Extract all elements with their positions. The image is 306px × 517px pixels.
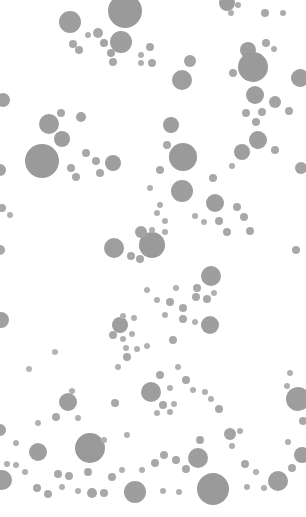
bubble-dot [144,287,150,293]
bubble-dot [193,284,201,292]
bubble-dot [192,213,198,219]
bubble-dot [154,210,160,216]
bubble-dot [93,28,103,38]
bubble-dot [292,246,300,254]
bubble-dot [120,313,126,319]
bubble-dot [271,146,279,154]
bubble-dot [100,39,108,47]
bubble-dot [171,180,193,202]
bubble-dot [262,39,270,47]
bubble-dot [201,266,221,286]
bubble-dot [242,109,250,117]
bubble-dot [179,315,187,323]
bubble-dot [108,473,116,481]
bubble-dot [157,202,163,208]
bubble-dot [241,460,249,468]
bubble-dot [237,428,243,434]
bubble-dot [211,290,217,296]
bubble-dot [120,336,126,342]
bubble-dot [163,117,179,133]
bubble-dot [246,227,254,235]
bubble-dot [182,465,190,473]
bubble-dot [288,464,296,472]
bubble-dot [59,393,77,411]
bubble-dot [54,470,62,478]
bubble-dot [192,293,200,301]
bubble-dot [167,409,173,415]
bubble-dot [201,219,207,225]
bubble-dot [244,484,250,490]
bubble-dot [240,213,248,221]
bubble-dot [234,144,250,160]
bubble-dot [223,228,231,236]
bubble-dot [201,316,219,334]
bubble-dot [163,141,171,149]
bubble-dot [197,473,229,505]
bubble-dot [246,86,264,104]
bubble-dot [124,481,146,503]
bubble-dot [109,58,117,66]
bubble-dot [33,484,41,492]
bubble-dot [229,443,235,449]
bubble-dot [75,433,105,463]
bubble-dot [136,255,144,263]
bubble-dot [215,405,223,413]
bubble-dot [208,396,214,402]
bubble-dot [229,69,237,77]
bubble-dot [105,155,121,171]
bubble-dot [209,174,217,182]
bubble-dot [111,399,119,407]
bubble-dot [75,415,81,421]
bubble-dot [179,304,187,312]
bubble-dot [176,489,182,495]
bubble-dot [69,40,77,48]
bubble-dot [285,107,293,115]
bubble-dot [101,437,107,443]
bubble-dot [129,331,135,337]
bubble-dot [96,169,104,177]
bubble-dot [119,467,125,473]
bubble-dot [29,443,47,461]
bubble-dot [249,131,267,149]
bubble-dot [235,2,241,8]
bubble-dot [82,149,90,157]
bubble-dot [269,96,281,108]
bubble-dot [162,312,168,318]
bubble-dot [182,376,190,384]
bubble-dot [75,46,83,54]
bubble-dot [44,490,52,498]
bubble-dot [127,252,135,260]
bubble-dot [146,43,154,51]
bubble-dot [115,364,121,370]
bubble-dot [203,295,211,303]
bubble-dot [190,387,196,393]
bubble-dot [154,297,160,303]
bubble-dot [253,469,259,475]
bubble-dot [147,185,153,191]
bubble-dot [175,364,181,370]
bubble-dot [138,60,144,66]
bubble-dot [13,462,19,468]
bubble-dot [76,112,86,122]
bubble-scatter-canvas [0,0,306,517]
bubble-dot [271,46,277,52]
bubble-dot [188,448,208,468]
bubble-dot [144,343,150,349]
bubble-dot [154,410,160,416]
bubble-dot [100,489,108,497]
bubble-dot [261,9,269,17]
bubble-dot [67,164,75,172]
bubble-dot [138,52,144,58]
bubble-dot [75,488,81,494]
bubble-dot [285,439,291,445]
bubble-pattern-artboard [0,0,306,517]
bubble-dot [160,451,168,459]
bubble-dot [84,468,92,476]
bubble-dot [162,229,168,235]
bubble-dot [268,471,288,491]
bubble-dot [135,226,147,238]
bubble-dot [131,315,137,321]
bubble-dot [148,59,156,67]
bubble-dot [22,469,28,475]
bubble-dot [7,212,13,218]
